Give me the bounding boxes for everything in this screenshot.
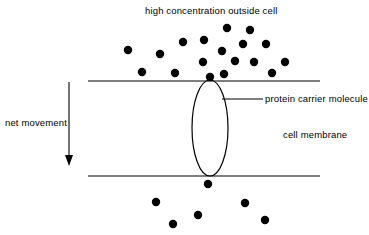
label-high-concentration-outside-cell: high concentration outside cell <box>145 6 277 16</box>
particle-dot <box>246 26 254 34</box>
particle-dot <box>138 68 146 76</box>
particle-dot <box>152 198 160 206</box>
particle-dot <box>194 211 202 219</box>
particle-dot <box>261 216 269 224</box>
protein-carrier-channel <box>192 80 228 176</box>
particle-dot <box>169 220 177 228</box>
particle-dot <box>171 69 179 77</box>
particle-dot <box>241 199 249 207</box>
particles-inside-cell <box>152 180 269 228</box>
particle-dot <box>220 70 228 78</box>
particle-dot <box>281 58 289 66</box>
particle-dot <box>199 58 207 66</box>
particle-dot <box>124 46 132 54</box>
label-net-movement: net movement <box>5 118 67 128</box>
particle-dot <box>250 58 258 66</box>
particle-dot <box>218 47 226 55</box>
particle-dot <box>156 50 164 58</box>
protein-carrier-ellipse <box>192 80 228 176</box>
particle-dot <box>179 38 187 46</box>
label-protein-carrier-molecule: protein carrier molecule <box>265 94 368 104</box>
particle-dot <box>200 36 208 44</box>
particle-dot <box>239 40 247 48</box>
particle-dot <box>268 69 276 77</box>
particle-dot <box>206 73 214 81</box>
net-movement-arrow-head <box>65 155 73 166</box>
label-cell-membrane: cell membrane <box>283 130 347 140</box>
particle-dot <box>231 57 239 65</box>
particle-dot <box>262 40 270 48</box>
particle-dot <box>204 180 212 188</box>
particles-outside-cell <box>124 24 289 81</box>
cell-membrane-diagram: high concentration outside cell net move… <box>0 0 369 235</box>
particle-dot <box>223 24 231 32</box>
